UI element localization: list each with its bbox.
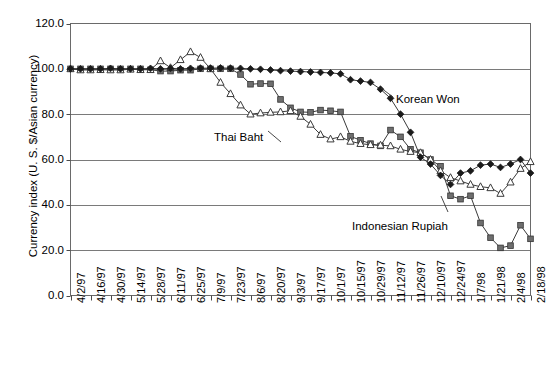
x-tick-label: 6/25/97 — [195, 266, 207, 303]
x-tick-label: 7/9/97 — [215, 272, 227, 303]
data-series-group — [67, 48, 534, 251]
annotation-label: Korean Won — [396, 93, 460, 105]
annotation-label: Thai Baht — [214, 131, 263, 143]
x-tick-label: 10/15/97 — [355, 260, 367, 303]
plot-canvas — [0, 0, 551, 376]
x-tick-label: 11/12/97 — [395, 260, 407, 302]
series-korean-won — [67, 65, 534, 188]
annotation-label: Indonesian Rupiah — [352, 220, 448, 232]
x-tick-label: 4/30/97 — [115, 266, 127, 303]
x-tick-label: 5/28/97 — [155, 266, 167, 303]
grid-lines — [71, 70, 531, 251]
x-tick-label: 12/24/97 — [455, 260, 467, 303]
x-tick-label: 9/3/97 — [295, 272, 307, 303]
x-tick-label: 5/14/97 — [135, 266, 147, 303]
top-edge-strip — [0, 0, 551, 3]
x-tick-label: 2/4/98 — [515, 272, 527, 303]
x-tick-label: 9/17/97 — [315, 266, 327, 303]
x-tick-label: 1/7/98 — [475, 272, 487, 303]
chart-figure: Currency index (U. S. $/Asian currency) … — [0, 0, 551, 376]
x-tick-label: 7/23/97 — [235, 266, 247, 303]
x-tick-label: 2/18/98 — [535, 266, 547, 303]
x-tick-label: 10/1/97 — [335, 266, 347, 303]
x-tick-label: 4/16/97 — [95, 266, 107, 303]
plot-frame — [71, 24, 531, 296]
x-tick-label: 8/6/97 — [255, 272, 267, 303]
x-tick-label: 12/10/97 — [435, 260, 447, 303]
series-indonesian-rupiah — [68, 66, 534, 251]
x-tick-label: 8/20/97 — [275, 266, 287, 303]
x-tick-label: 4/2/97 — [75, 272, 87, 303]
x-tick-label: 11/26/97 — [415, 260, 427, 302]
x-tick-label: 6/11/97 — [175, 267, 187, 303]
x-tick-label: 1/21/98 — [495, 266, 507, 303]
x-tick-label: 10/29/97 — [375, 260, 387, 303]
